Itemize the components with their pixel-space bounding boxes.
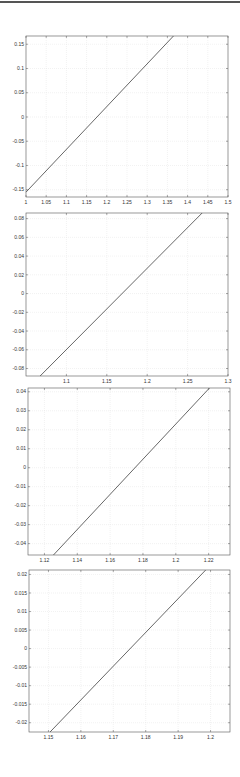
plot-area — [29, 570, 230, 732]
x-tick-label: 1.25 — [122, 199, 132, 205]
y-tick-label: -0.05 — [13, 138, 25, 144]
y-tick-label: 0 — [21, 114, 24, 120]
y-tick-label: 0.1 — [17, 65, 24, 71]
subplot-1: 11.051.11.151.21.251.31.351.41.451.50.15… — [13, 36, 232, 205]
y-tick-label: -0.005 — [13, 664, 27, 670]
y-tick-label: 0.02 — [14, 272, 24, 278]
subplot-3: 1.121.141.161.181.21.220.040.030.020.010… — [15, 388, 230, 563]
x-tick-label: 1.35 — [163, 199, 173, 205]
y-tick-label: -0.01 — [16, 682, 28, 688]
y-tick-label: 0.04 — [14, 253, 24, 259]
x-tick-label: 1.18 — [138, 557, 148, 563]
y-tick-label: 0.015 — [14, 590, 27, 596]
x-tick-label: 1.15 — [44, 734, 54, 740]
y-tick-label: 0.03 — [16, 407, 26, 413]
y-tick-label: 0.005 — [14, 627, 27, 633]
figure-canvas: 11.051.11.151.21.251.31.351.41.451.50.15… — [0, 0, 240, 777]
y-tick-label: -0.02 — [15, 502, 27, 508]
y-tick-label: 0 — [21, 290, 24, 296]
y-tick-label: -0.1 — [15, 162, 24, 168]
y-tick-label: 0.04 — [16, 388, 26, 394]
y-tick-label: 0.02 — [17, 571, 27, 577]
x-tick-label: 1.1 — [63, 378, 70, 384]
x-tick-label: 1.2 — [172, 557, 179, 563]
y-tick-label: 0.01 — [17, 608, 27, 614]
y-tick-label: 0.15 — [14, 41, 24, 47]
y-tick-label: -0.015 — [13, 701, 27, 707]
x-tick-label: 1.05 — [41, 199, 51, 205]
y-tick-label: -0.04 — [15, 540, 27, 546]
x-tick-label: 1.17 — [108, 734, 118, 740]
y-tick-label: -0.04 — [13, 328, 25, 334]
x-tick-label: 1.2 — [207, 734, 214, 740]
y-tick-label: 0.06 — [14, 234, 24, 240]
y-tick-label: 0.05 — [14, 89, 24, 95]
plot-area — [28, 388, 230, 555]
x-tick-label: 1.4 — [184, 199, 191, 205]
x-tick-label: 1.2 — [103, 199, 110, 205]
y-tick-label: 0.08 — [14, 215, 24, 221]
subplot-4: 1.151.161.171.181.191.20.020.0150.010.00… — [13, 570, 230, 740]
y-tick-label: 0 — [23, 464, 26, 470]
x-tick-label: 1.14 — [72, 557, 82, 563]
x-tick-label: 1.5 — [225, 199, 232, 205]
y-tick-label: -0.03 — [15, 521, 27, 527]
x-tick-label: 1.12 — [40, 557, 50, 563]
y-tick-label: -0.08 — [13, 365, 25, 371]
x-tick-label: 1.15 — [82, 199, 92, 205]
y-tick-label: -0.15 — [13, 186, 25, 192]
y-tick-label: 0.02 — [16, 426, 26, 432]
x-tick-label: 1.16 — [76, 734, 86, 740]
y-tick-label: -0.02 — [16, 719, 28, 725]
subplot-2: 1.11.151.21.251.30.080.060.040.020-0.02-… — [13, 213, 232, 384]
x-tick-label: 1.2 — [144, 378, 151, 384]
x-tick-label: 1.3 — [144, 199, 151, 205]
x-tick-label: 1.25 — [183, 378, 193, 384]
x-tick-label: 1.15 — [102, 378, 112, 384]
x-tick-label: 1.1 — [63, 199, 70, 205]
y-tick-label: -0.06 — [13, 346, 25, 352]
x-tick-label: 1 — [25, 199, 28, 205]
y-tick-label: 0.01 — [16, 445, 26, 451]
y-tick-label: -0.01 — [15, 483, 27, 489]
x-tick-label: 1.19 — [173, 734, 183, 740]
x-tick-label: 1.45 — [203, 199, 213, 205]
y-tick-label: 0 — [24, 645, 27, 651]
x-tick-label: 1.16 — [105, 557, 115, 563]
x-tick-label: 1.22 — [204, 557, 214, 563]
y-tick-label: -0.02 — [13, 309, 25, 315]
x-tick-label: 1.3 — [225, 378, 232, 384]
x-tick-label: 1.18 — [141, 734, 151, 740]
